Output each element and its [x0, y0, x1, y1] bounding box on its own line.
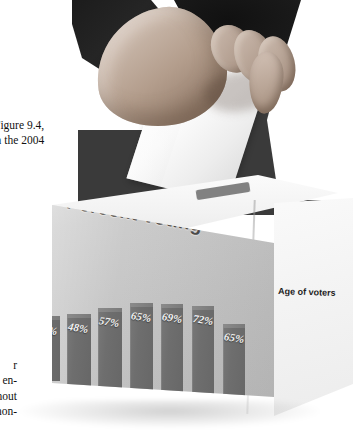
- bar-value-label: 48%: [67, 320, 95, 336]
- bar-value-label: 57%: [99, 314, 127, 330]
- bar-value-label: 72%: [192, 312, 220, 328]
- bar-top-cap: [67, 314, 91, 318]
- caption-line: f non-: [0, 404, 17, 419]
- caption-text-top: Figure 9.4,n the 2004: [0, 118, 44, 149]
- bar: 57%: [98, 311, 121, 395]
- x-axis-label: Age of voters: [278, 286, 336, 298]
- bar-top-cap: [98, 308, 121, 312]
- bar: 42%: [36, 319, 60, 381]
- bar: 48%: [67, 317, 91, 388]
- caption-line: n the 2004: [0, 133, 44, 148]
- bar-value-label: 65%: [130, 309, 158, 325]
- figure-canvas: Percent voting 42%18–2448%25–3457%35–446…: [0, 0, 353, 444]
- bar-top-cap: [161, 304, 184, 308]
- bar-top-cap: [130, 303, 153, 307]
- caption-text-bottom: r65 en-rnoutf non-: [0, 358, 17, 420]
- caption-line: r: [0, 358, 17, 373]
- bar-top-cap: [192, 306, 214, 310]
- bar-top-cap: [36, 316, 60, 320]
- ballot-box-drop-shadow: [20, 400, 320, 428]
- caption-line: rnout: [0, 389, 17, 404]
- bar-value-label: 42%: [36, 322, 64, 338]
- caption-line: Figure 9.4,: [0, 118, 44, 133]
- bar-value-label: 69%: [161, 310, 189, 326]
- bar: 65%: [130, 306, 153, 402]
- caption-line: 65 en-: [0, 373, 17, 388]
- bar-top-cap: [223, 324, 245, 328]
- bar-value-label: 65%: [223, 330, 251, 346]
